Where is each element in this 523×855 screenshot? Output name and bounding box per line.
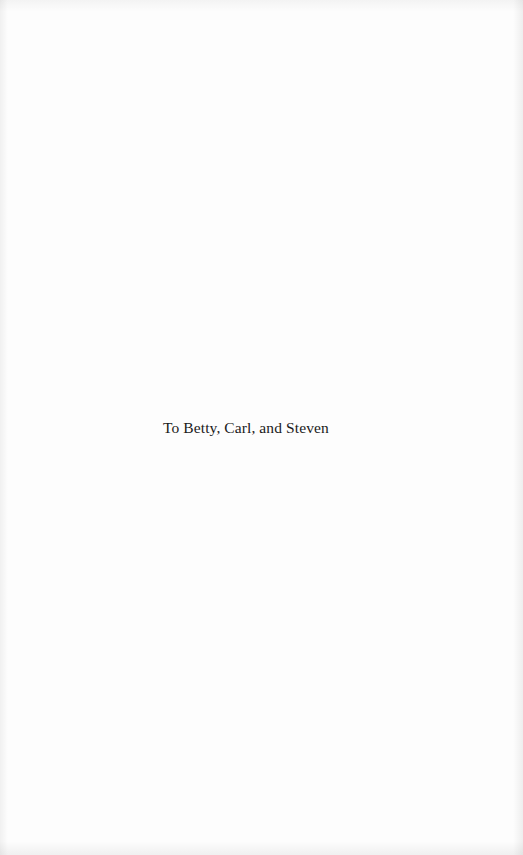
dedication-text: To Betty, Carl, and Steven xyxy=(163,419,329,437)
book-page: To Betty, Carl, and Steven xyxy=(0,0,523,855)
